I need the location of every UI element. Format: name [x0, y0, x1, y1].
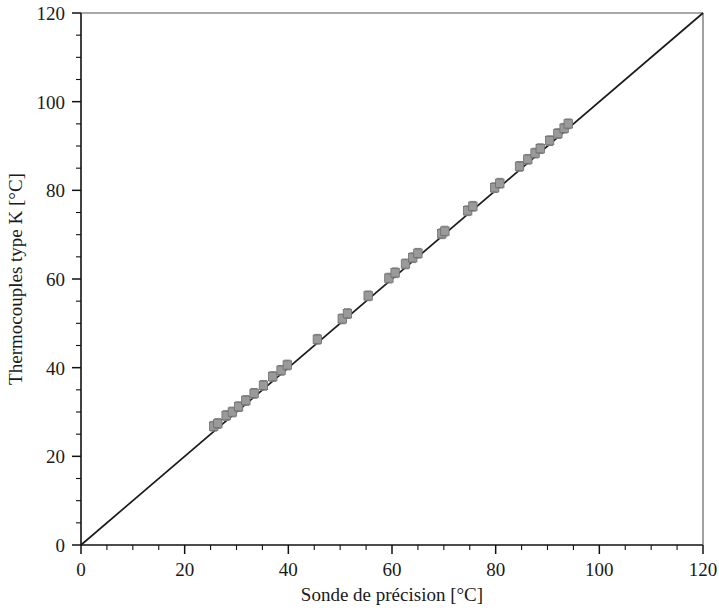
y-tick-label: 120	[37, 3, 66, 24]
data-point-marker	[564, 120, 572, 128]
data-point	[391, 268, 399, 278]
data-point	[283, 360, 291, 370]
data-point	[469, 201, 477, 211]
data-point-marker	[242, 396, 250, 404]
data-point-marker	[469, 202, 477, 210]
data-point	[441, 226, 449, 236]
data-point	[343, 309, 351, 319]
data-point	[313, 334, 321, 344]
y-axis-title: Thermocouples type K [°C]	[5, 173, 26, 385]
y-tick-label: 80	[46, 180, 65, 201]
x-tick-label: 80	[486, 559, 505, 580]
y-tick-label: 60	[46, 269, 65, 290]
x-axis-tick-labels: 020406080100120	[76, 559, 717, 580]
data-point-marker	[545, 136, 553, 144]
x-tick-label: 120	[689, 559, 718, 580]
y-tick-label: 0	[56, 535, 66, 556]
data-point	[269, 372, 277, 382]
x-tick-label: 0	[76, 559, 86, 580]
x-axis-title: Sonde de précision [°C]	[301, 584, 483, 605]
data-point-marker	[259, 381, 267, 389]
data-point-series	[209, 119, 572, 431]
y-tick-label: 100	[37, 92, 66, 113]
data-point-marker	[414, 249, 422, 257]
data-point-marker	[515, 162, 523, 170]
data-point-marker	[536, 144, 544, 152]
x-tick-label: 100	[585, 559, 614, 580]
y-axis-tick-labels: 020406080100120	[37, 3, 66, 556]
y-tick-label: 20	[46, 446, 65, 467]
data-point-marker	[441, 227, 449, 235]
data-point	[242, 396, 250, 406]
data-point-marker	[496, 179, 504, 187]
data-point	[545, 136, 553, 146]
data-point	[214, 419, 222, 429]
y-tick-label: 40	[46, 358, 65, 379]
x-tick-label: 20	[175, 559, 194, 580]
data-point	[259, 381, 267, 391]
chart-canvas: 020406080100120 020406080100120 Sonde de…	[0, 0, 719, 611]
data-point-marker	[214, 419, 222, 427]
data-point	[364, 291, 372, 301]
data-point-marker	[283, 361, 291, 369]
data-point	[564, 119, 572, 129]
data-point-marker	[364, 292, 372, 300]
x-tick-label: 60	[383, 559, 402, 580]
calibration-chart-figure: 020406080100120 020406080100120 Sonde de…	[0, 0, 719, 611]
x-tick-label: 40	[279, 559, 298, 580]
data-point-marker	[269, 372, 277, 380]
data-point-marker	[250, 389, 258, 397]
data-point-marker	[391, 269, 399, 277]
data-point-marker	[313, 335, 321, 343]
data-point	[536, 144, 544, 154]
data-point	[515, 162, 523, 172]
data-point	[250, 389, 258, 399]
data-point	[414, 248, 422, 258]
data-point-marker	[343, 309, 351, 317]
data-point	[496, 178, 504, 188]
